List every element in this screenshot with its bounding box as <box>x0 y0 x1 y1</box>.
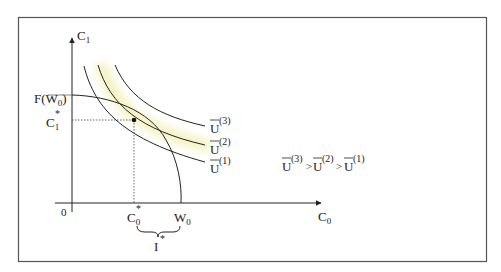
i-star-label: I <box>154 239 158 254</box>
svg-text:>: > <box>336 160 342 172</box>
svg-text:(1): (1) <box>353 153 365 165</box>
svg-text:(3): (3) <box>291 153 303 165</box>
indifference-curve-u2 <box>98 65 205 145</box>
curve-label-u3: U (3) <box>210 115 231 136</box>
c1-star-sup: * <box>55 108 60 119</box>
svg-text:(2): (2) <box>219 136 231 148</box>
x-axis-label: C0 <box>318 209 332 226</box>
indifference-curve-diagram: C1 C0 0 F(W0) C1 * C0 * W0 I * U (3) U (… <box>0 0 501 272</box>
curve-label-u2: U (2) <box>210 136 231 157</box>
w0-label: W0 <box>174 210 191 227</box>
investment-brace <box>137 226 180 237</box>
svg-text:(3): (3) <box>219 115 231 127</box>
origin-label: 0 <box>61 206 67 218</box>
highlight-band <box>102 68 205 145</box>
utility-ordering: U (3) > U (2) > U (1) <box>282 153 365 174</box>
svg-text:(1): (1) <box>219 155 231 167</box>
i-star-sup: * <box>160 233 165 244</box>
svg-text:(2): (2) <box>322 153 334 165</box>
c0-star-sup: * <box>136 203 141 214</box>
figure-frame <box>19 18 487 262</box>
f-w0-label: F(W0) <box>34 91 67 108</box>
y-axis-label: C1 <box>77 28 90 45</box>
tangency-point <box>132 118 137 123</box>
svg-text:>: > <box>306 160 312 172</box>
curve-label-u1: U (1) <box>210 155 231 176</box>
